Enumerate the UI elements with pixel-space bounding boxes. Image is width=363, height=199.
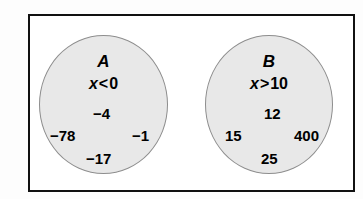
set-condition-a-variable: x [89,75,98,92]
set-member: 15 [225,128,242,143]
set-condition-b-value: 10 [270,75,288,92]
set-condition-b-variable: x [250,75,259,92]
set-condition-a-value: 0 [109,75,118,92]
set-condition-b: x>10 [206,76,332,92]
set-member: −1 [132,128,149,143]
set-member: −78 [50,128,75,143]
set-circle-a: A x<0 −4 −78 −1 −17 [39,35,168,174]
diagram-frame: A x<0 −4 −78 −1 −17 B x>10 12 15 400 25 [28,14,355,192]
set-member: −4 [93,106,110,121]
set-member: 400 [294,128,319,143]
set-member: −17 [86,151,111,166]
set-label-a: A [40,53,167,70]
set-condition-a-operator: < [98,75,109,92]
set-member: 12 [264,106,281,121]
set-label-b: B [206,53,332,70]
set-condition-b-operator: > [259,75,270,92]
set-member: 25 [261,151,278,166]
set-circle-b: B x>10 12 15 400 25 [205,35,333,174]
set-condition-a: x<0 [40,76,167,92]
